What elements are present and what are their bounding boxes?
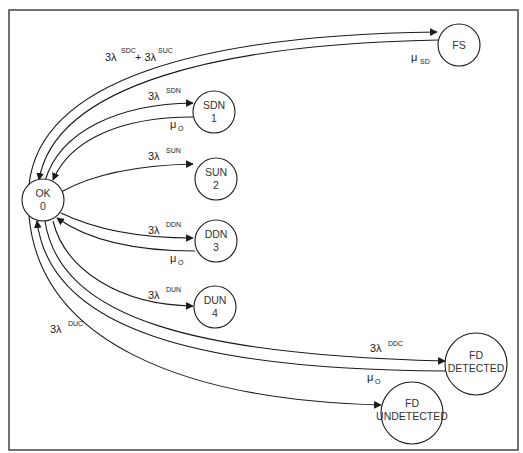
svg-text:4: 4	[212, 307, 218, 319]
svg-text:DUC: DUC	[68, 320, 83, 327]
svg-text:FS: FS	[452, 39, 465, 51]
svg-text:μ: μ	[170, 118, 176, 130]
label-ok-to-ddn: 3λ DDN	[148, 221, 181, 236]
svg-text:μ: μ	[170, 252, 176, 264]
svg-text:DETECTED: DETECTED	[448, 362, 505, 374]
svg-text:UNDETECTED: UNDETECTED	[376, 410, 448, 422]
svg-text:μ: μ	[411, 51, 417, 63]
svg-text:SDC: SDC	[121, 47, 136, 54]
svg-text:O: O	[178, 259, 184, 266]
edge-ok-to-sun	[61, 164, 193, 192]
svg-text:3λ: 3λ	[148, 150, 160, 162]
svg-text:DUN: DUN	[204, 294, 227, 306]
node-fs: FS	[438, 24, 480, 66]
svg-text:SUN: SUN	[166, 147, 181, 154]
edge-ok-to-fd-detected	[45, 221, 445, 361]
svg-text:+ 3λ: + 3λ	[135, 51, 157, 63]
svg-text:SUN: SUN	[205, 166, 227, 178]
svg-text:μ: μ	[367, 371, 373, 383]
node-ddn: DDN 3	[195, 220, 237, 262]
node-fd-detected: FD DETECTED	[445, 333, 507, 395]
svg-text:3λ: 3λ	[105, 51, 117, 63]
svg-text:OK: OK	[35, 187, 50, 199]
svg-text:3λ: 3λ	[370, 342, 382, 354]
label-ok-to-fd-detected: 3λ DDC	[370, 340, 403, 354]
label-ok-to-sdn: 3λ SDN	[148, 87, 181, 102]
label-ok-to-sun: 3λ SUN	[148, 147, 181, 162]
label-ok-to-dun: 3λ DUN	[148, 286, 181, 301]
edge-fs-to-ok	[39, 40, 438, 180]
label-ddn-to-ok: μ O	[170, 252, 184, 266]
svg-text:DDN: DDN	[166, 221, 181, 228]
node-sun: SUN 2	[195, 158, 237, 200]
svg-text:3λ: 3λ	[148, 289, 160, 301]
svg-text:1: 1	[211, 112, 217, 124]
diagram-frame	[9, 10, 518, 450]
svg-text:DUN: DUN	[166, 286, 181, 293]
svg-text:3: 3	[213, 241, 219, 253]
edge-fd-detected-to-ok	[37, 221, 446, 371]
svg-text:DDC: DDC	[388, 340, 403, 347]
label-ok-to-fs: 3λ SDC + 3λ SUC	[105, 47, 173, 63]
svg-text:2: 2	[213, 179, 219, 191]
svg-text:O: O	[375, 378, 381, 385]
svg-text:0: 0	[40, 200, 46, 212]
node-dun: DUN 4	[194, 286, 236, 328]
node-ok: OK 0	[22, 179, 64, 221]
node-fd-undetected: FD UNDETECTED	[376, 382, 448, 444]
svg-text:3λ: 3λ	[148, 224, 160, 236]
label-fd-detected-to-ok: μ O	[367, 371, 381, 385]
svg-text:SD: SD	[420, 58, 430, 65]
svg-text:FD: FD	[405, 397, 419, 409]
label-fs-to-ok: μ SD	[411, 51, 430, 65]
svg-text:FD: FD	[469, 349, 483, 361]
label-sdn-to-ok: μ O	[170, 118, 184, 132]
state-diagram: OK 0 SDN 1 SUN 2 DDN 3 DUN 4 FS FD DETEC…	[0, 0, 523, 453]
svg-text:O: O	[178, 125, 184, 132]
svg-text:3λ: 3λ	[148, 90, 160, 102]
label-ok-to-fd-undetected: 3λ DUC	[50, 320, 83, 335]
svg-text:SDN: SDN	[166, 87, 181, 94]
svg-text:DDN: DDN	[205, 228, 228, 240]
svg-text:SUC: SUC	[158, 47, 173, 54]
svg-text:SDN: SDN	[203, 99, 225, 111]
node-sdn: SDN 1	[193, 91, 235, 133]
svg-text:3λ: 3λ	[50, 323, 62, 335]
